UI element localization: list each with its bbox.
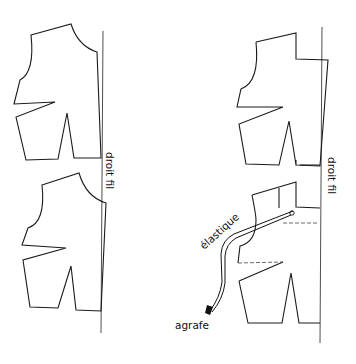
elastic-label: élastique <box>197 210 241 251</box>
bottom-left-bodice <box>22 173 106 311</box>
hook-icon <box>205 305 213 315</box>
hook-label: agrafe <box>175 319 209 331</box>
grain-label-left: droit fil <box>104 152 116 189</box>
bottom-right-dart-dashed <box>238 262 283 263</box>
grain-line-right <box>320 27 322 343</box>
pattern-diagram: droit fil droit fil élastique agrafe <box>0 0 356 364</box>
grain-label-right: droit fil <box>326 157 338 194</box>
top-right-bodice <box>237 33 328 166</box>
top-left-bodice <box>14 24 101 160</box>
